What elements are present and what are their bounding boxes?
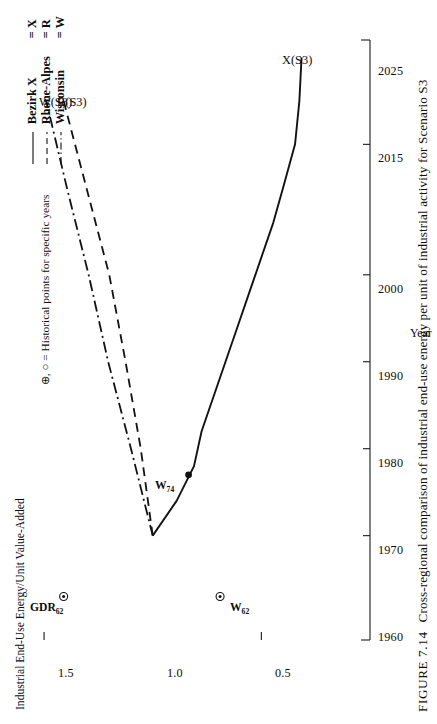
x-tick-label-1970: 1970 <box>378 543 403 558</box>
chart-canvas <box>18 40 370 640</box>
historical-point-marker <box>216 593 224 601</box>
y-tick-label-1.0: 1.0 <box>167 666 183 681</box>
legend-eq-bezirk-x: = X <box>26 19 40 38</box>
x-tick-label-1990: 1990 <box>378 369 403 384</box>
x-tick-label-1960: 1960 <box>378 630 403 645</box>
figure-number: FIGURE 7.14 <box>415 631 430 712</box>
historical-point-marker <box>185 471 192 478</box>
series-label-xs3: X(S3) <box>282 53 312 68</box>
figure-caption: FIGURE 7.14Cross-regional comparison of … <box>415 12 431 712</box>
historical-point-label-w74: W74 <box>155 479 174 494</box>
figure-caption-text: Cross-regional comparison of industrial … <box>415 80 430 623</box>
x-tick-label-2000: 2000 <box>378 282 403 297</box>
figure-7-14: Industrial End-Use Energy/Unit Value-Add… <box>0 0 437 724</box>
x-tick-label-2025: 2025 <box>378 64 403 79</box>
historical-point-label-gdr62: GDR62 <box>30 601 63 616</box>
x-tick-label-2015: 2015 <box>378 151 403 166</box>
y-tick-label-1.5: 1.5 <box>58 666 74 681</box>
plot-area <box>18 40 370 640</box>
series-path-ws3 <box>46 101 152 536</box>
series-path-xs3 <box>153 57 302 535</box>
y-tick-label-0.5: 0.5 <box>275 666 291 681</box>
legend-eq-wisconsin: = W <box>54 16 68 38</box>
series-label-ws3: W(S3) <box>39 95 72 110</box>
historical-points-note: ⊕, ○ = Historical points for specific ye… <box>38 195 52 386</box>
x-tick-label-1980: 1980 <box>378 456 403 471</box>
historical-point-label-w62: W62 <box>230 601 249 616</box>
historical-point-marker <box>60 593 68 601</box>
legend-eq-rhone-alpes: = R <box>40 19 54 38</box>
figure-stage: Industrial End-Use Energy/Unit Value-Add… <box>0 0 437 724</box>
series-path-rs3 <box>64 101 153 536</box>
